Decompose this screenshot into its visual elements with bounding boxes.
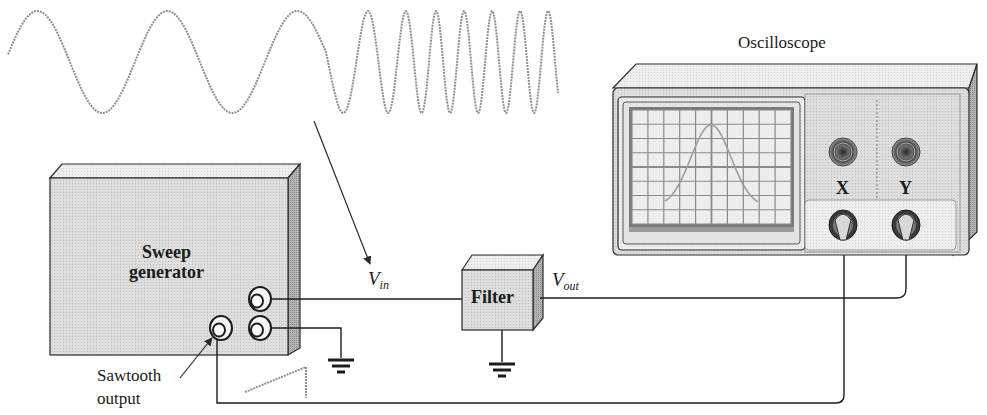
vout-label: Vout: [552, 269, 579, 294]
vout-subscript: out: [564, 279, 579, 293]
connector-x-input[interactable]: [829, 210, 857, 240]
jack-vin-output[interactable]: [249, 287, 271, 311]
jack-ground[interactable]: [249, 316, 271, 340]
sweep-test-diagram: [0, 0, 987, 415]
oscilloscope-title: Oscilloscope: [738, 33, 826, 53]
oscilloscope-screen: [629, 107, 794, 232]
connector-y-input[interactable]: [892, 210, 920, 240]
vin-subscript: in: [380, 278, 389, 292]
knob-x-icon[interactable]: [829, 138, 857, 166]
knob-y-icon[interactable]: [892, 138, 920, 166]
ground-symbol-filter: [489, 330, 515, 376]
filter-label: Filter: [471, 287, 514, 308]
chirp-waveform: [8, 11, 558, 113]
sawtooth-label-1: Sawtooth: [97, 366, 161, 386]
channel-x-label: X: [836, 178, 849, 199]
sawtooth-waveform-icon: [245, 367, 306, 398]
sweep-generator-label-1: Sweep: [142, 242, 191, 263]
vin-label: Vin: [368, 268, 389, 293]
vin-main: V: [368, 268, 380, 289]
sawtooth-label-2: output: [97, 389, 140, 409]
jack-sawtooth-output[interactable]: [210, 316, 232, 340]
sweep-generator-label-2: generator: [129, 262, 204, 283]
vout-main: V: [552, 269, 564, 290]
channel-y-label: Y: [899, 178, 912, 199]
waveform-arrow: [314, 121, 370, 264]
